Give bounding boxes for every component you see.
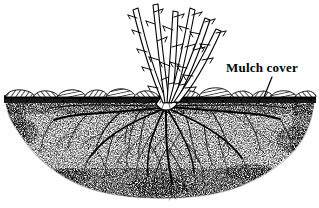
illustration-canvas: Mulch cover — [0, 0, 319, 208]
mulch-cover-label: Mulch cover — [226, 60, 298, 75]
mulch-cover-figure: Mulch cover — [0, 0, 319, 208]
